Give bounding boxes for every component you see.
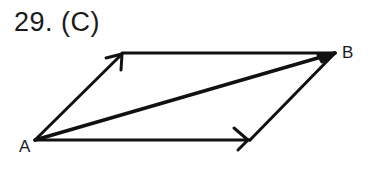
vertex-label-b: B: [342, 43, 353, 63]
parallelogram-diagram: [0, 0, 375, 175]
vertex-label-a: A: [19, 137, 30, 157]
